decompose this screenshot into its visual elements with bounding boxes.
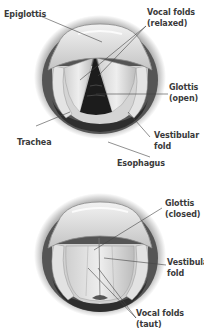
label-trachea: Trachea: [17, 138, 51, 148]
larynx-closed-illustration: [34, 193, 166, 317]
label-vocal-folds-relaxed-note: (relaxed): [147, 19, 187, 29]
larynx-open-illustration: [34, 15, 166, 139]
label-vocal-folds-relaxed: Vocal folds: [147, 8, 195, 18]
label-vestibular-fold-top: Vestibular: [154, 131, 199, 141]
label-glottis-closed: Glottis: [165, 199, 194, 209]
larynx-diagram: Epiglottis Vocal folds (relaxed) Glottis…: [0, 0, 204, 331]
label-vestibular-fold-bottom-note: fold: [167, 269, 184, 279]
larynx-illustrations: [0, 0, 204, 331]
label-vocal-folds-taut: Vocal folds: [136, 309, 184, 319]
label-vocal-folds-taut-note: (taut): [136, 320, 161, 330]
label-glottis-open-note: (open): [169, 94, 198, 104]
label-epiglottis: Epiglottis: [4, 10, 46, 20]
label-vestibular-fold-top-note: fold: [154, 142, 171, 152]
label-esophagus: Esophagus: [117, 159, 165, 169]
label-glottis-open: Glottis: [169, 83, 198, 93]
label-glottis-closed-note: (closed): [165, 210, 200, 220]
label-vestibular-fold-bottom: Vestibular: [167, 258, 204, 268]
